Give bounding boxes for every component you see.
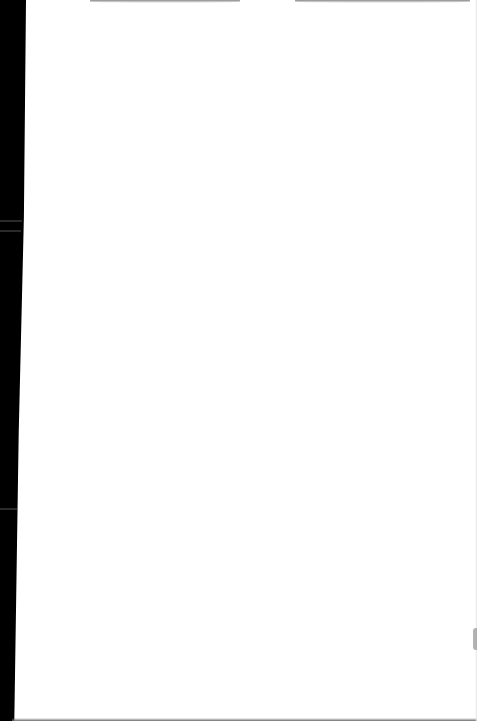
blank-page-area [28, 4, 474, 717]
top-edge-shadow [90, 0, 240, 3]
binding-seam [0, 230, 21, 232]
binding-seam [0, 220, 22, 222]
scanned-page [0, 0, 477, 721]
binding-edge [0, 0, 26, 721]
binding-seam [0, 508, 17, 510]
top-edge-shadow [295, 0, 470, 3]
